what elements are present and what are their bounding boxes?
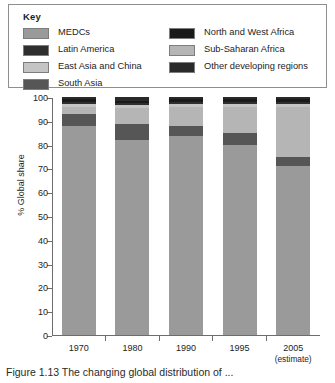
y-axis-tick-label: 20 <box>38 283 48 293</box>
bar-segment[interactable] <box>115 105 149 107</box>
bar-segment[interactable] <box>223 99 257 101</box>
y-axis-tick-label: 0 <box>43 331 48 341</box>
legend-swatch-icon <box>169 45 195 56</box>
bar-segment[interactable] <box>62 97 96 99</box>
legend-item: MEDCs <box>23 25 142 41</box>
legend-item-label: Latin America <box>58 45 114 54</box>
legend-item-label: MEDCs <box>58 28 90 37</box>
stacked-bar[interactable] <box>276 97 310 335</box>
y-axis-title: % Global share <box>16 140 26 230</box>
bar-segment[interactable] <box>169 104 203 106</box>
legend-swatch-icon <box>169 28 195 39</box>
bar-segment[interactable] <box>169 99 203 101</box>
bar-segment[interactable] <box>276 97 310 99</box>
bar-segment[interactable] <box>62 99 96 101</box>
x-axis-label-year: 1970 <box>69 343 89 353</box>
x-axis-tick-label: 1970 <box>69 343 89 353</box>
bar-segment[interactable] <box>62 126 96 335</box>
bar-segment[interactable] <box>223 97 257 99</box>
legend-item: Sub-Saharan Africa <box>169 42 308 58</box>
bar-segment[interactable] <box>169 126 203 137</box>
bar-segment[interactable] <box>115 103 149 105</box>
legend-column-left: MEDCsLatin AmericaEast Asia and ChinaSou… <box>23 25 142 93</box>
legend-item: Other developing regions <box>169 59 308 75</box>
bar-segment[interactable] <box>223 104 257 106</box>
bar-segment[interactable] <box>276 104 310 106</box>
bar-segment[interactable] <box>223 102 257 104</box>
bar-segment[interactable] <box>62 114 96 126</box>
legend-item-label: South Asia <box>58 79 102 88</box>
stacked-bar[interactable] <box>115 97 149 335</box>
bar-segment[interactable] <box>276 99 310 101</box>
y-axis-tick-label: 80 <box>38 141 48 151</box>
legend-item: South Asia <box>23 76 142 92</box>
bar-segment[interactable] <box>223 107 257 133</box>
x-axis-tick <box>212 336 213 341</box>
legend-swatch-icon <box>23 45 49 56</box>
bar-segment[interactable] <box>62 104 96 106</box>
legend-swatch-icon <box>23 79 49 90</box>
x-axis-label-year: 1990 <box>176 343 196 353</box>
legend-item-label: Sub-Saharan Africa <box>204 45 285 54</box>
y-axis-tick-label: 90 <box>38 117 48 127</box>
legend-item-label: East Asia and China <box>58 62 142 71</box>
stacked-bar[interactable] <box>62 97 96 335</box>
legend-key-box: Key MEDCsLatin AmericaEast Asia and Chin… <box>8 4 327 88</box>
y-axis-tick-label: 30 <box>38 260 48 270</box>
bar-segment[interactable] <box>276 102 310 104</box>
bar-segment[interactable] <box>223 133 257 145</box>
bar-segment[interactable] <box>115 124 149 139</box>
figure-caption: Figure 1.13 The changing global distribu… <box>6 366 335 378</box>
x-axis-line <box>52 335 320 336</box>
bar-segment[interactable] <box>169 102 203 104</box>
x-axis-tick-label: 1980 <box>122 343 142 353</box>
stacked-bar[interactable] <box>169 97 203 335</box>
legend-title: Key <box>23 11 41 22</box>
y-axis-tick-label: 70 <box>38 164 48 174</box>
legend-item: East Asia and China <box>23 59 142 75</box>
y-axis-tick-label: 50 <box>38 212 48 222</box>
axes: 0102030405060708090100197019801990199520… <box>52 98 320 336</box>
bar-segment[interactable] <box>115 108 149 125</box>
x-axis-tick <box>266 336 267 341</box>
bar-segment[interactable] <box>169 107 203 126</box>
y-axis-line <box>52 98 53 336</box>
x-axis-label-year: 1995 <box>230 343 250 353</box>
bar-segment[interactable] <box>276 107 310 157</box>
x-axis-tick <box>159 336 160 341</box>
y-axis-tick-label: 60 <box>38 188 48 198</box>
bar-segment[interactable] <box>276 157 310 167</box>
bar-segment[interactable] <box>169 136 203 335</box>
bar-segment[interactable] <box>115 101 149 103</box>
legend-item: North and West Africa <box>169 25 308 41</box>
legend-swatch-icon <box>23 28 49 39</box>
bar-segment[interactable] <box>62 102 96 104</box>
x-axis-label-year: 1980 <box>122 343 142 353</box>
x-axis-tick <box>105 336 106 341</box>
legend-swatch-icon <box>23 62 49 73</box>
bar-segment[interactable] <box>276 166 310 335</box>
stacked-bar[interactable] <box>223 97 257 335</box>
legend-item-label: Other developing regions <box>204 62 308 71</box>
bar-segment[interactable] <box>115 140 149 335</box>
legend-swatch-icon <box>169 62 195 73</box>
y-axis-tick-label: 100 <box>33 93 48 103</box>
x-axis-tick-label: 1995 <box>230 343 250 353</box>
bar-segment[interactable] <box>169 97 203 99</box>
x-axis-label-note: (estimate) <box>275 354 312 364</box>
legend-item: Latin America <box>23 42 142 58</box>
x-axis-label-year: 2005 <box>283 343 303 353</box>
legend-item-label: North and West Africa <box>204 28 294 37</box>
x-axis-tick-label: 2005(estimate) <box>275 343 312 364</box>
legend-column-right: North and West AfricaSub-Saharan AfricaO… <box>169 25 308 76</box>
x-axis-tick-label: 1990 <box>176 343 196 353</box>
bar-segment[interactable] <box>115 97 149 101</box>
bar-segment[interactable] <box>223 145 257 335</box>
chart-plot-area: % Global share 0102030405060708090100197… <box>0 92 335 352</box>
bar-segment[interactable] <box>62 107 96 114</box>
chart-page: Key MEDCsLatin AmericaEast Asia and Chin… <box>0 0 335 383</box>
y-axis-tick-label: 10 <box>38 307 48 317</box>
y-axis-tick-label: 40 <box>38 236 48 246</box>
